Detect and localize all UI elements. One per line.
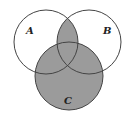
label-b: B (102, 25, 111, 36)
label-c: C (64, 95, 72, 106)
venn-diagram: A B C (0, 0, 133, 115)
label-a: A (25, 25, 34, 36)
